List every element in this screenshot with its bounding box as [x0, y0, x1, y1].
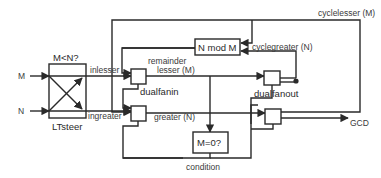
ltsteer-title: M<N? [53, 52, 79, 63]
dualfanout-upper-output [280, 78, 299, 84]
cyclelesser-wire [112, 20, 360, 112]
ltsteer-block [49, 64, 86, 118]
dualfanout-lower-output [281, 100, 360, 118]
dualfanin-upper-block [131, 69, 146, 84]
gcd-dataflow-diagram: cyclelesser (M) cyclegreater (N) remaind… [0, 0, 381, 178]
ltsteer-label: LTsteer [52, 121, 82, 132]
dualfanout-lower-block [265, 109, 281, 124]
nmodm-label: N mod M [198, 42, 237, 53]
m-input-label: M [18, 71, 25, 81]
cyclegreater-label: cyclegreater (N) [252, 42, 313, 52]
mzero-label: M=0? [197, 137, 221, 148]
condition-label: condition [186, 162, 220, 172]
gcd-output-label: GCD [350, 118, 369, 128]
inlesser-label: inlesser [90, 65, 119, 75]
cyclelesser-label: cyclelesser (M) [318, 8, 375, 18]
n-input-label: N [18, 106, 24, 116]
dualfanout-label: dualfanout [254, 88, 299, 99]
lesser-label: lesser (M) [157, 65, 195, 75]
dualfanin-label: dualfanin [140, 86, 179, 97]
dualfanout-upper-block [264, 71, 280, 85]
lesser-wire [146, 76, 264, 132]
dualfanin-lower-block [131, 106, 146, 121]
greater-label: greater (N) [154, 112, 195, 122]
ingreater-label: ingreater [88, 111, 122, 121]
